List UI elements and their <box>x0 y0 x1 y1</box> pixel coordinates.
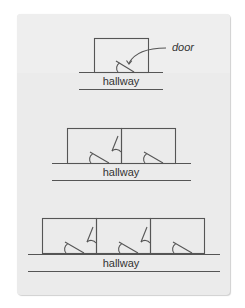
door-icon <box>141 227 150 243</box>
door-icon <box>65 242 84 253</box>
panel-3: hallway <box>28 219 220 272</box>
door-icon <box>90 152 109 163</box>
door-icon <box>144 152 163 163</box>
room-1 <box>95 39 149 73</box>
hallway-label: hallway <box>103 166 140 178</box>
door-label: door <box>172 41 195 53</box>
panel-2: hallway <box>52 129 191 181</box>
door-icon <box>173 242 192 253</box>
door-icon <box>87 227 96 243</box>
room-3 <box>151 219 205 254</box>
door-callout-arrow <box>127 48 167 64</box>
door-icon <box>116 61 134 72</box>
room-2 <box>122 129 176 164</box>
door-icon <box>119 242 138 253</box>
room-2 <box>97 219 151 254</box>
hallway-label: hallway <box>103 257 140 269</box>
room-1 <box>43 219 97 254</box>
door-icon <box>112 136 121 152</box>
hallway-room-diagram: door hallway hallway <box>0 0 245 308</box>
room-1 <box>68 129 122 164</box>
hallway-label: hallway <box>103 75 140 87</box>
panel-1: door hallway <box>79 39 195 90</box>
